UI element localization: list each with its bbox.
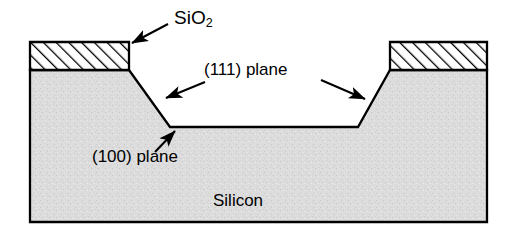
plane-111-left-leader-arrow [166, 82, 205, 98]
sio2-label-text: SiO [174, 7, 206, 28]
plane-111-label: (111) plane [204, 61, 287, 78]
sio2-label-subscript: 2 [206, 16, 213, 30]
sio2-label: SiO2 [174, 8, 213, 29]
oxide-mask-right [390, 42, 487, 70]
plane-100-label: (100) plane [92, 148, 178, 165]
plane-111-right-leader-arrow [321, 80, 365, 99]
sio2-leader-arrow [132, 24, 168, 43]
silicon-label: Silicon [213, 192, 263, 209]
etch-cross-section-figure: SiO2 (111) plane (100) plane Silicon [0, 0, 516, 246]
oxide-mask-left [30, 42, 129, 70]
